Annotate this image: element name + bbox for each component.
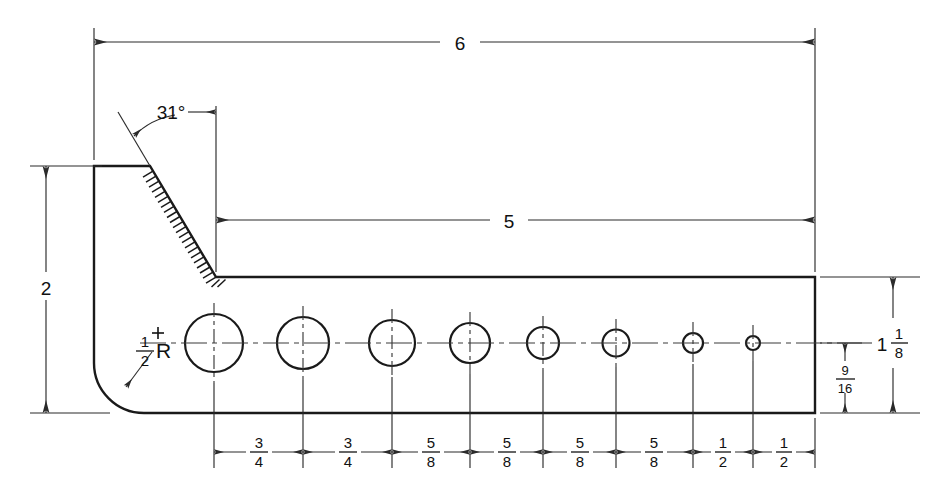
dimension-right-side-group: 1 1 8 9 16 (820, 277, 920, 413)
spacing-2-denominator: 4 (344, 453, 352, 470)
spacing-dimension-5: 5 8 (543, 432, 616, 470)
spacing-8-denominator: 2 (780, 453, 788, 470)
dimension-hole-spacings-group: 3 4 3 4 5 8 5 8 (214, 361, 815, 470)
radius-denominator: 2 (141, 352, 149, 369)
dimension-overall-length: 6 (94, 28, 815, 272)
bar-height-whole: 1 (877, 334, 888, 355)
spacing-4-denominator: 8 (503, 453, 511, 470)
hatch-ticks (143, 171, 226, 287)
spacing-dimension-2: 3 4 (303, 432, 392, 470)
radius-cross-mark (152, 327, 164, 339)
dim-label-overall-height: 2 (41, 278, 52, 299)
spacing-6-numerator: 5 (650, 434, 658, 451)
dimension-shelf-length: 5 (216, 106, 815, 272)
spacing-3-denominator: 8 (427, 453, 435, 470)
center-to-bottom-denominator: 16 (838, 381, 852, 396)
bevel-hatching-group (143, 171, 226, 287)
center-to-bottom-numerator: 9 (841, 363, 848, 378)
spacing-dimension-1: 3 4 (214, 432, 303, 470)
bar-height-denominator: 8 (895, 344, 903, 361)
dimension-bevel-angle: 31° (118, 102, 216, 166)
spacing-dimension-3: 5 8 (392, 432, 470, 470)
spacing-3-numerator: 5 (427, 434, 435, 451)
spacing-7-numerator: 1 (719, 434, 727, 451)
spacing-6-denominator: 8 (650, 453, 658, 470)
radius-suffix-label: R (156, 339, 171, 362)
dim-label-shelf-length: 5 (504, 211, 515, 232)
spacing-dimension-4: 5 8 (470, 432, 543, 470)
spacing-dimension-8: 1 2 (753, 432, 815, 470)
radius-numerator: 1 (141, 333, 149, 350)
spacing-1-denominator: 4 (255, 453, 263, 470)
engineering-drawing-canvas: 6 5 31° 2 1 2 R (0, 0, 932, 488)
bar-height-numerator: 1 (895, 325, 903, 342)
spacing-dimension-7: 1 2 (693, 432, 753, 470)
dimension-corner-radius: 1 2 R (126, 327, 171, 387)
technical-drawing: 6 5 31° 2 1 2 R (0, 0, 932, 488)
centerlines-group (140, 303, 862, 383)
dim-label-overall-length: 6 (455, 33, 466, 54)
spacing-1-numerator: 3 (255, 434, 263, 451)
spacing-5-denominator: 8 (576, 453, 584, 470)
spacing-7-denominator: 2 (719, 453, 727, 470)
dimension-center-to-bottom: 9 16 (836, 343, 855, 413)
spacing-8-numerator: 1 (780, 434, 788, 451)
bevel-extension-line (118, 112, 150, 166)
dimension-bar-height: 1 1 8 (877, 277, 908, 413)
dim-label-bevel-angle: 31° (157, 102, 186, 123)
part-outline-group (94, 166, 815, 413)
spacing-dimension-6: 5 8 (616, 432, 693, 470)
spacing-5-numerator: 5 (576, 434, 584, 451)
spacing-2-numerator: 3 (344, 434, 352, 451)
spacing-4-numerator: 5 (503, 434, 511, 451)
part-outline-path (94, 166, 815, 413)
dimension-overall-height: 2 (30, 166, 110, 413)
